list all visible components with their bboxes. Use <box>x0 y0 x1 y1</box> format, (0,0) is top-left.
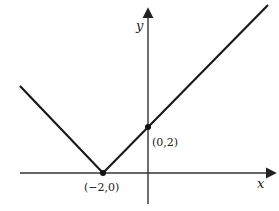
intercept-label: (0,2) <box>152 136 178 149</box>
vertex-label: (−2,0) <box>84 181 119 194</box>
graph: y x (0,2) (−2,0) <box>0 0 279 211</box>
intercept-point <box>145 124 151 130</box>
y-axis-label: y <box>135 18 144 33</box>
function-line <box>20 5 268 173</box>
x-axis-label: x <box>257 176 265 191</box>
vertex-point <box>100 170 106 176</box>
